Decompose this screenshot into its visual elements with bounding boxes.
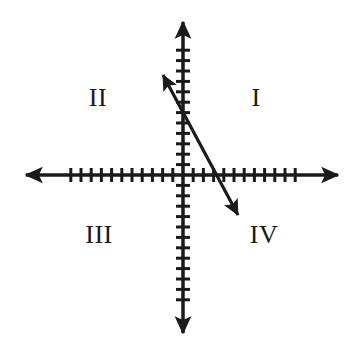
negative-slope-line	[163, 75, 238, 215]
coordinate-plane-figure: IIIIIIIV	[0, 0, 360, 355]
quadrant-label-iv: IV	[250, 222, 278, 248]
quadrant-label-i: I	[251, 85, 260, 111]
quadrant-label-iii: III	[85, 222, 112, 248]
y-axis-group	[176, 22, 190, 333]
quadrant-label-ii: II	[89, 85, 107, 111]
coordinate-plane-svg	[0, 0, 360, 355]
